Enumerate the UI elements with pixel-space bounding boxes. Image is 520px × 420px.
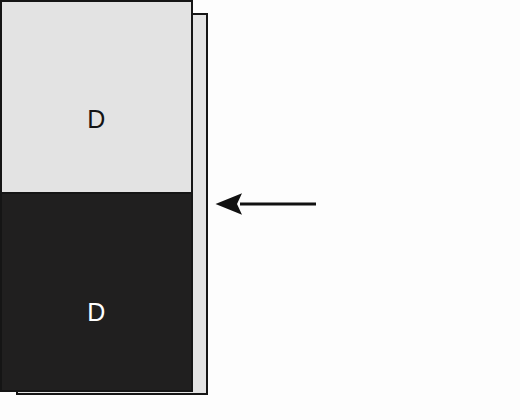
node-d-top-rectangle[interactable]: D — [0, 0, 193, 194]
arrow-head — [216, 193, 243, 215]
diagram-canvas: E D D — [0, 0, 520, 420]
node-d-stack: D D — [0, 0, 193, 392]
node-d-bottom-rectangle[interactable]: D — [0, 192, 193, 392]
node-d-top-label: D — [2, 107, 191, 132]
node-d-bottom-label: D — [2, 300, 191, 325]
arrow-left-icon[interactable] — [212, 190, 316, 218]
